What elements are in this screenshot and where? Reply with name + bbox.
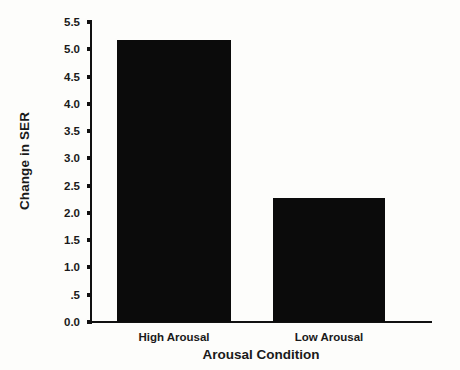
y-tick-label: 1.0 — [10, 260, 80, 274]
y-tick: 2.5 — [0, 179, 92, 193]
y-tick: 5.0 — [0, 42, 92, 56]
y-tick: 5.5 — [0, 15, 92, 29]
y-tick-label: 5.0 — [10, 42, 80, 56]
y-tick-label: 4.5 — [10, 70, 80, 84]
y-tick-label: .5 — [10, 288, 80, 302]
y-tick: 3.5 — [0, 124, 92, 138]
y-tick-label: 3.0 — [10, 151, 80, 165]
y-tick-label: 1.5 — [10, 233, 80, 247]
x-axis-title: Arousal Condition — [90, 347, 432, 362]
y-tick-label: 3.5 — [10, 124, 80, 138]
y-tick-label: 5.5 — [10, 15, 80, 29]
y-tick-label: 4.0 — [10, 97, 80, 111]
y-tick: 1.0 — [0, 260, 92, 274]
y-tick-label: 2.0 — [10, 206, 80, 220]
y-tick: 2.0 — [0, 206, 92, 220]
y-tick: 4.0 — [0, 97, 92, 111]
y-tick: 3.0 — [0, 151, 92, 165]
bar — [273, 198, 385, 322]
bar — [117, 40, 231, 322]
y-tick-label: 2.5 — [10, 179, 80, 193]
x-category-label: Low Arousal — [253, 329, 405, 345]
x-category-label: High Arousal — [97, 329, 251, 345]
y-tick: 1.5 — [0, 233, 92, 247]
y-tick: .5 — [0, 288, 92, 302]
bar-chart-figure: Change in SER 0.0.51.01.52.02.53.03.54.0… — [0, 0, 460, 370]
y-tick: 0.0 — [0, 315, 92, 329]
plot-area — [90, 22, 432, 322]
y-tick: 4.5 — [0, 70, 92, 84]
y-tick-label: 0.0 — [10, 315, 80, 329]
